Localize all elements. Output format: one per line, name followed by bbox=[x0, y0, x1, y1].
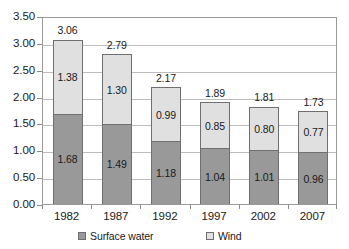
y-axis-tick-label: 1.50 bbox=[13, 119, 35, 131]
bar-segment-value-label: 1.01 bbox=[250, 172, 278, 183]
y-axis-tick-label: 2.00 bbox=[13, 92, 35, 104]
plot-area: 1.381.683.061.301.492.790.991.182.170.85… bbox=[42, 17, 337, 205]
bar-group: 0.801.011.81 bbox=[240, 18, 289, 204]
legend-item-label: Wind bbox=[218, 231, 242, 242]
x-axis-tick-mark bbox=[91, 205, 92, 209]
bar-total-label: 3.06 bbox=[58, 25, 78, 36]
x-axis: 198219871992199720022007 bbox=[42, 205, 337, 227]
bar-stack[interactable]: 0.991.18 bbox=[151, 87, 181, 204]
bar-segment-value-label: 0.77 bbox=[299, 127, 327, 138]
y-axis-tick-label: 1.00 bbox=[13, 146, 35, 158]
x-axis-tick-label: 1997 bbox=[201, 211, 226, 223]
bar-segment-value-label: 0.96 bbox=[299, 173, 327, 184]
bar-total-label: 1.73 bbox=[303, 97, 323, 108]
bar-total-label: 1.81 bbox=[254, 92, 274, 103]
bar-segment-value-label: 0.80 bbox=[250, 124, 278, 135]
bar-segment-surface-water[interactable]: 1.01 bbox=[249, 150, 279, 204]
y-axis-tick-label: 3.50 bbox=[13, 11, 35, 23]
bar-group: 1.381.683.06 bbox=[43, 18, 92, 204]
x-axis-tick-mark bbox=[239, 205, 240, 209]
x-axis-tick-mark bbox=[42, 205, 43, 209]
bar-segment-wind[interactable]: 1.38 bbox=[53, 40, 83, 114]
bar-group: 0.851.041.89 bbox=[191, 18, 240, 204]
bar-segment-value-label: 0.85 bbox=[201, 121, 229, 132]
outlined-square-icon bbox=[206, 232, 214, 240]
x-axis-tick-label: 1987 bbox=[103, 211, 128, 223]
filled-square-icon bbox=[78, 232, 86, 240]
bar-segment-surface-water[interactable]: 1.18 bbox=[151, 141, 181, 204]
bar-total-label: 2.17 bbox=[156, 73, 176, 84]
bar-segment-surface-water[interactable]: 1.68 bbox=[53, 114, 83, 204]
bar-stack[interactable]: 0.770.96 bbox=[298, 111, 328, 204]
bar-group: 0.770.961.73 bbox=[289, 18, 338, 204]
legend-item-label: Surface water bbox=[90, 231, 153, 242]
bar-segment-value-label: 0.99 bbox=[152, 109, 180, 120]
legend-item[interactable]: Wind bbox=[206, 229, 242, 243]
bar-segment-value-label: 1.49 bbox=[103, 159, 131, 170]
x-axis-tick-mark bbox=[288, 205, 289, 209]
bar-segment-value-label: 1.30 bbox=[103, 84, 131, 95]
bar-total-label: 1.89 bbox=[205, 88, 225, 99]
y-axis-tick-label: 0.00 bbox=[13, 199, 35, 211]
bar-group: 1.301.492.79 bbox=[92, 18, 141, 204]
x-axis-tick-label: 2002 bbox=[251, 211, 276, 223]
bar-segment-wind[interactable]: 0.99 bbox=[151, 87, 181, 140]
bar-stack[interactable]: 1.301.49 bbox=[102, 54, 132, 204]
bar-segment-value-label: 1.04 bbox=[201, 171, 229, 182]
bar-stack[interactable]: 0.851.04 bbox=[200, 102, 230, 204]
bar-segment-wind[interactable]: 1.30 bbox=[102, 54, 132, 124]
legend-item[interactable]: Surface water bbox=[78, 229, 153, 243]
bar-segment-surface-water[interactable]: 1.04 bbox=[200, 148, 230, 204]
x-axis-tick-mark bbox=[140, 205, 141, 209]
chart-legend: Surface waterWind bbox=[42, 229, 337, 243]
y-axis-tick-label: 2.50 bbox=[13, 65, 35, 77]
y-axis-tick-label: 0.50 bbox=[13, 172, 35, 184]
x-axis-tick-label: 1992 bbox=[152, 211, 177, 223]
bar-segment-value-label: 1.68 bbox=[54, 154, 82, 165]
bar-segment-surface-water[interactable]: 0.96 bbox=[298, 152, 328, 204]
bar-segment-surface-water[interactable]: 1.49 bbox=[102, 124, 132, 204]
bar-segment-wind[interactable]: 0.77 bbox=[298, 111, 328, 152]
bars-layer: 1.381.683.061.301.492.790.991.182.170.85… bbox=[43, 18, 336, 204]
x-axis-tick-label: 2007 bbox=[300, 211, 325, 223]
bar-segment-wind[interactable]: 0.85 bbox=[200, 102, 230, 148]
x-axis-tick-mark bbox=[190, 205, 191, 209]
bar-segment-value-label: 1.18 bbox=[152, 168, 180, 179]
bar-stack[interactable]: 1.381.68 bbox=[53, 40, 83, 204]
bar-group: 0.991.182.17 bbox=[141, 18, 190, 204]
bar-segment-value-label: 1.38 bbox=[54, 72, 82, 83]
bar-segment-wind[interactable]: 0.80 bbox=[249, 107, 279, 150]
x-axis-tick-label: 1982 bbox=[54, 211, 79, 223]
x-axis-tick-mark bbox=[336, 205, 337, 209]
stacked-bar-chart: 0.000.501.001.502.002.503.003.50 1.381.6… bbox=[0, 0, 349, 249]
bar-total-label: 2.79 bbox=[107, 40, 127, 51]
y-axis-tick-label: 3.00 bbox=[13, 38, 35, 50]
y-axis: 0.000.501.001.502.002.503.003.50 bbox=[0, 0, 42, 249]
bar-stack[interactable]: 0.801.01 bbox=[249, 107, 279, 204]
